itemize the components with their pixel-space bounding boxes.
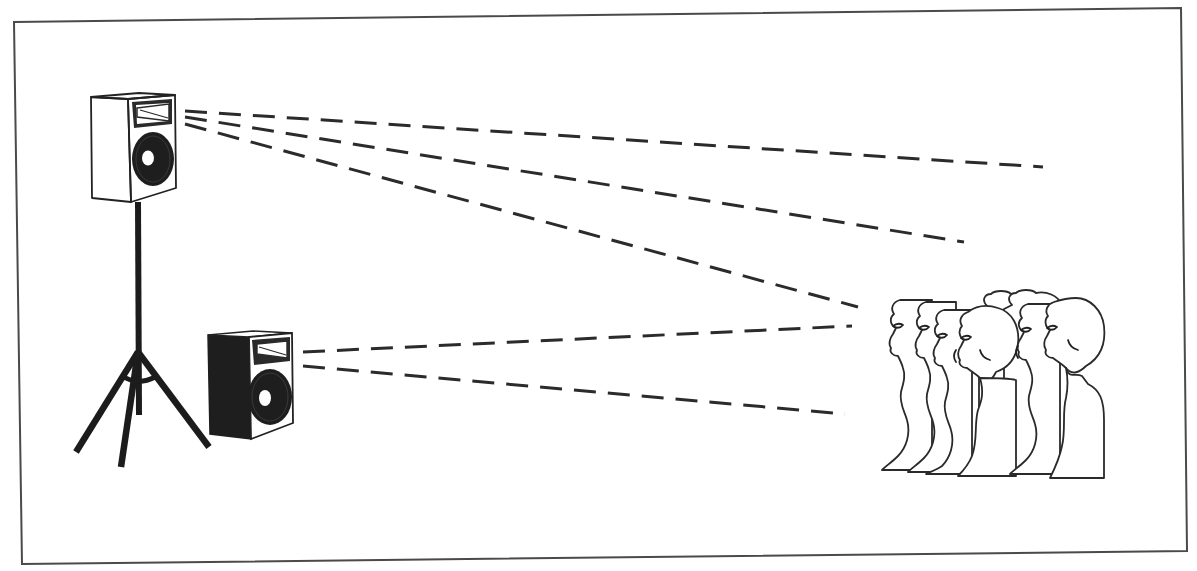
sound-path-3 [185,124,858,307]
tripod-stand [76,202,209,467]
diagram-frame [14,8,1187,564]
lower-sound-paths [303,326,852,414]
upper-speaker [91,93,176,202]
lower-speaker [208,331,293,439]
diagram-canvas: Speaker placement and sound dispersion t… [0,0,1197,571]
sound-path-1 [185,111,1043,167]
sound-path-5 [303,366,845,414]
audience [882,290,1104,478]
upper-sound-paths [185,111,1043,307]
sound-path-4 [303,326,852,352]
